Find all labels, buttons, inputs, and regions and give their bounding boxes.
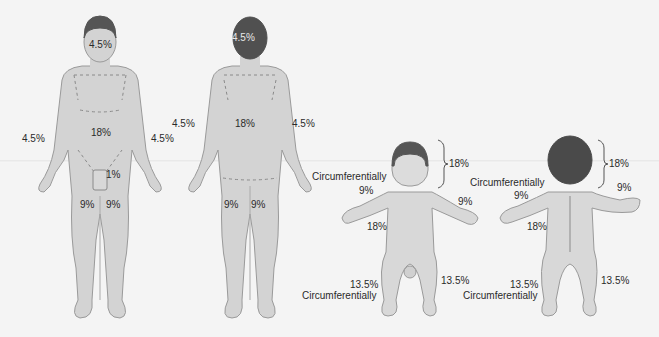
child-back-left-leg-label: 13.5% xyxy=(510,280,538,290)
child-front-head-note: Circumferentially xyxy=(312,172,386,182)
adult-front-trunk-label: 18% xyxy=(91,128,111,138)
adult-front-left-leg-label: 9% xyxy=(106,200,120,210)
adult-back-figure xyxy=(189,17,312,318)
adult-back-right-arm-label: 4.5% xyxy=(292,119,315,129)
child-back-head-bracket xyxy=(598,140,608,188)
child-front-head-percent-label: 18% xyxy=(449,159,469,169)
child-front-head-bracket xyxy=(438,140,448,188)
child-front-left-arm-label: 9% xyxy=(458,197,472,207)
adult-front-head-label: 4.5% xyxy=(89,40,112,50)
adult-back-head-label: 4.5% xyxy=(232,33,255,43)
body-figures xyxy=(0,0,659,337)
child-back-right-leg-label: 13.5% xyxy=(601,276,629,286)
child-front-trunk-label: 18% xyxy=(367,222,387,232)
adult-front-figure xyxy=(39,16,162,318)
child-back-head-note: Circumferentially xyxy=(470,178,544,188)
adult-front-left-arm-label: 4.5% xyxy=(151,134,174,144)
child-back-left-arm-label: 9% xyxy=(514,191,528,201)
child-back-trunk-label: 18% xyxy=(527,222,547,232)
child-front-right-leg-label: 13.5% xyxy=(350,280,378,290)
child-front-leg-note: Circumferentially xyxy=(302,291,376,301)
adult-back-trunk-label: 18% xyxy=(235,119,255,129)
child-front-right-arm-label: 9% xyxy=(359,186,373,196)
child-back-right-arm-label: 9% xyxy=(617,183,631,193)
adult-back-left-arm-label: 4.5% xyxy=(172,119,195,129)
adult-front-genitalia-label: 1% xyxy=(106,170,120,180)
child-back-head-percent-label: 18% xyxy=(609,159,629,169)
burn-chart-diagram: 4.5% 4.5% 4.5% 18% 1% 9% 9% 4.5% 4.5% 4.… xyxy=(0,0,659,337)
adult-front-right-arm-label: 4.5% xyxy=(22,134,45,144)
child-back-leg-note: Circumferentially xyxy=(463,291,537,301)
adult-back-right-leg-label: 9% xyxy=(251,200,265,210)
adult-back-left-leg-label: 9% xyxy=(224,200,238,210)
child-front-left-leg-label: 13.5% xyxy=(441,276,469,286)
adult-front-right-leg-label: 9% xyxy=(80,200,94,210)
